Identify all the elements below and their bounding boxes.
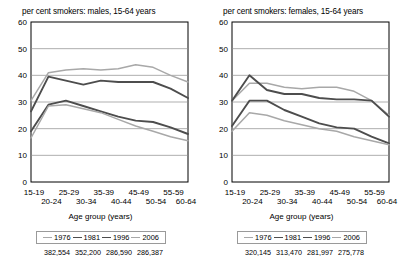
legend-label-1996-females: 1996 bbox=[314, 234, 330, 242]
x-axis-ticks-males: 15-19 20-24 25-29 30-34 35-39 40-44 45-4… bbox=[24, 188, 197, 206]
svg-text:20: 20 bbox=[18, 125, 27, 134]
svg-text:25-29: 25-29 bbox=[59, 188, 80, 197]
legend-sample-counts-males: 382,554 352,200 286,590 286,387 bbox=[16, 248, 191, 257]
svg-text:35-39: 35-39 bbox=[94, 188, 115, 197]
x-axis-ticks-females: 15-19 20-24 25-29 30-34 35-39 40-44 45-4… bbox=[225, 188, 398, 206]
plot-area-females: 60 50 40 30 20 10 0 15-19 20-24 25-29 30… bbox=[201, 0, 402, 215]
legend-swatch-2006-males bbox=[131, 237, 140, 238]
svg-text:50-54: 50-54 bbox=[347, 197, 368, 206]
svg-text:40: 40 bbox=[219, 71, 228, 80]
svg-text:40-44: 40-44 bbox=[111, 197, 132, 206]
plot-area-males: 60 50 40 30 20 10 0 15-19 20-24 25-29 30… bbox=[0, 0, 201, 215]
svg-text:15-19: 15-19 bbox=[24, 188, 45, 197]
svg-text:30-34: 30-34 bbox=[277, 197, 298, 206]
svg-text:50: 50 bbox=[18, 45, 27, 54]
legend-label-1996-males: 1996 bbox=[113, 234, 129, 242]
sample-count-1981-males: 352,200 bbox=[73, 248, 104, 257]
legend-label-1976-males: 1976 bbox=[54, 234, 70, 242]
legend-swatch-1996-males bbox=[102, 237, 111, 238]
legend-label-1981-females: 1981 bbox=[285, 234, 301, 242]
svg-text:30-34: 30-34 bbox=[76, 197, 97, 206]
svg-text:20-24: 20-24 bbox=[41, 197, 62, 206]
legend-males: 1976 1981 1996 2006 bbox=[36, 231, 166, 244]
svg-text:60-64: 60-64 bbox=[176, 197, 197, 206]
svg-text:10: 10 bbox=[219, 151, 228, 160]
legend-entry-1976-females: 1976 bbox=[243, 234, 272, 242]
sample-count-1976-females: 320,145 bbox=[243, 248, 274, 257]
svg-text:60: 60 bbox=[18, 18, 27, 27]
legend-entry-1981-males: 1981 bbox=[72, 234, 101, 242]
sample-count-2006-females: 275,778 bbox=[335, 248, 366, 257]
sample-count-2006-males: 286,387 bbox=[134, 248, 165, 257]
svg-text:10: 10 bbox=[18, 151, 27, 160]
svg-text:0: 0 bbox=[224, 178, 229, 187]
y-axis-ticks-females: 60 50 40 30 20 10 0 bbox=[219, 18, 228, 187]
svg-text:45-49: 45-49 bbox=[329, 188, 350, 197]
legend-swatch-2006-females bbox=[332, 237, 341, 238]
sample-count-1976-males: 382,554 bbox=[42, 248, 73, 257]
svg-text:30: 30 bbox=[219, 98, 228, 107]
sample-count-1981-females: 313,470 bbox=[274, 248, 305, 257]
legend-label-2006-males: 2006 bbox=[142, 234, 158, 242]
svg-text:15-19: 15-19 bbox=[225, 188, 246, 197]
svg-text:0: 0 bbox=[23, 178, 28, 187]
legend-swatch-1976-males bbox=[43, 237, 52, 238]
svg-text:50-54: 50-54 bbox=[146, 197, 167, 206]
legend-entry-2006-females: 2006 bbox=[331, 234, 360, 242]
legend-swatch-1981-males bbox=[73, 237, 82, 238]
legend-females: 1976 1981 1996 2006 bbox=[237, 231, 367, 244]
svg-text:45-49: 45-49 bbox=[128, 188, 149, 197]
sample-count-1996-females: 281,997 bbox=[305, 248, 336, 257]
legend-swatch-1996-females bbox=[303, 237, 312, 238]
svg-text:60: 60 bbox=[219, 18, 228, 27]
legend-sample-counts-females: 320,145 313,470 281,997 275,778 bbox=[217, 248, 392, 257]
svg-text:20: 20 bbox=[219, 125, 228, 134]
svg-text:60-64: 60-64 bbox=[377, 197, 398, 206]
legend-label-1981-males: 1981 bbox=[84, 234, 100, 242]
svg-text:35-39: 35-39 bbox=[295, 188, 316, 197]
legend-swatch-1976-females bbox=[244, 237, 253, 238]
svg-text:20-24: 20-24 bbox=[242, 197, 263, 206]
svg-text:50: 50 bbox=[219, 45, 228, 54]
svg-text:25-29: 25-29 bbox=[260, 188, 281, 197]
x-axis-caption-males: Age group (years) bbox=[0, 212, 201, 222]
svg-text:40-44: 40-44 bbox=[312, 197, 333, 206]
line-chart-svg-males: 60 50 40 30 20 10 0 15-19 20-24 25-29 30… bbox=[0, 0, 201, 215]
y-axis-ticks-males: 60 50 40 30 20 10 0 bbox=[18, 18, 27, 187]
legend-entry-1996-males: 1996 bbox=[101, 234, 130, 242]
x-axis-caption-females: Age group (years) bbox=[201, 212, 402, 222]
sample-count-1996-males: 286,590 bbox=[104, 248, 135, 257]
svg-text:55-59: 55-59 bbox=[364, 188, 385, 197]
legend-label-2006-females: 2006 bbox=[343, 234, 359, 242]
chart-panel-females: per cent smokers: females, 15-64 years 6… bbox=[201, 0, 402, 265]
legend-swatch-1981-females bbox=[274, 237, 283, 238]
legend-label-1976-females: 1976 bbox=[255, 234, 271, 242]
legend-entry-1981-females: 1981 bbox=[273, 234, 302, 242]
svg-text:40: 40 bbox=[18, 71, 27, 80]
chart-panel-males: per cent smokers: males, 15-64 years 60 … bbox=[0, 0, 201, 265]
svg-text:30: 30 bbox=[18, 98, 27, 107]
legend-entry-1976-males: 1976 bbox=[42, 234, 71, 242]
legend-entry-1996-females: 1996 bbox=[302, 234, 331, 242]
line-chart-svg-females: 60 50 40 30 20 10 0 15-19 20-24 25-29 30… bbox=[201, 0, 402, 215]
svg-text:55-59: 55-59 bbox=[163, 188, 184, 197]
legend-entry-2006-males: 2006 bbox=[130, 234, 159, 242]
smoking-prevalence-figure: per cent smokers: males, 15-64 years 60 … bbox=[0, 0, 402, 265]
